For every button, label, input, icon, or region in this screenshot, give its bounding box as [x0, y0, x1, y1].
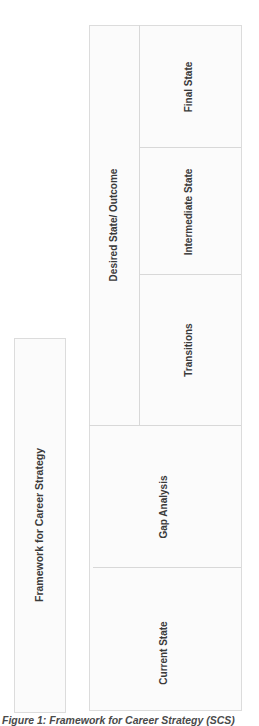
cell-intermediate-state-label: Intermediate State	[183, 162, 197, 262]
framework-title-label: Framework for Career Strategy	[33, 445, 47, 605]
figure-caption: Figure 1: Framework for Career Strategy …	[2, 714, 235, 726]
cell-transitions-label: Transitions	[183, 310, 197, 390]
cell-final-state-label: Final State	[183, 47, 197, 127]
framework-grid	[89, 25, 242, 711]
divider-gap-current	[93, 567, 241, 568]
cell-current-state-label: Current State	[158, 613, 172, 693]
cell-desired-state-label: Desired State/ Outcome	[108, 165, 122, 285]
cell-gap-analysis-label: Gap Analysis	[158, 467, 172, 547]
divider-final-intermediate	[139, 147, 241, 148]
divider-transitions-gap	[89, 425, 241, 426]
divider-desired-column	[139, 25, 140, 425]
divider-intermediate-transitions	[139, 274, 241, 275]
